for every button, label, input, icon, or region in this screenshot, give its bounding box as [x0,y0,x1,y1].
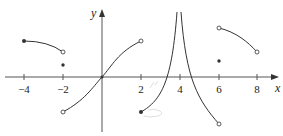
tick-label: −2 [57,83,69,95]
isolated-point [61,63,64,66]
tick-label: 8 [254,83,260,95]
piece-1-curve [24,41,63,52]
closed-point [139,110,143,114]
tick-label: 2 [138,83,144,95]
origin-point [101,76,104,79]
piece-5-curve [219,28,257,52]
open-point [255,50,259,54]
isolated-point [217,59,220,62]
piece-3-curve [141,12,177,112]
axes [5,14,274,132]
x-axis-arrow-icon [271,74,279,80]
scribble-marks [144,81,162,117]
open-point [217,26,221,30]
function-graph: −4 −2 2 4 6 8 x y [0,0,283,136]
y-axis-label: y [90,6,97,20]
open-point [61,50,65,54]
closed-point [22,39,26,43]
curves [24,12,257,124]
y-axis-arrow-icon [99,9,105,17]
tick-label: 4 [177,83,183,95]
x-axis-label: x [274,81,281,95]
tick-label: −4 [18,83,30,95]
open-point [61,110,65,114]
open-point [139,39,143,43]
tick-label: 6 [216,83,222,95]
piece-4-curve [181,12,219,124]
x-tick-labels: −4 −2 2 4 6 8 [18,83,260,95]
open-point [217,122,221,126]
